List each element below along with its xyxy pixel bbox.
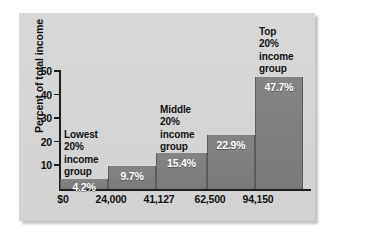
annotation-line: group [64, 166, 98, 178]
annotation-line: Top [259, 26, 293, 38]
y-axis-line [59, 70, 61, 189]
y-tick-mark [54, 117, 59, 119]
figure-canvas: Percent of total income 50 40 30 20 10 [0, 0, 365, 241]
bar-lowest-quintile[interactable]: 4.2% [60, 179, 108, 189]
bar-top-quintile[interactable]: 47.7% [255, 77, 303, 189]
y-tick-label: 40 [41, 90, 52, 101]
x-tick-label-0: $0 [57, 193, 68, 205]
x-tick-label-41127: 41,127 [144, 193, 175, 205]
bar-fourth-quintile[interactable]: 22.9% [207, 135, 255, 189]
annotation-line: Middle [160, 104, 194, 116]
x-tick-label-94150: 94,150 [243, 193, 274, 205]
annotation-line: income [160, 129, 194, 141]
x-tick-label-24000: 24,000 [96, 193, 127, 205]
chart-panel: Percent of total income 50 40 30 20 10 [19, 13, 315, 221]
y-tick-mark [54, 164, 59, 166]
bar-second-quintile[interactable]: 9.7% [108, 166, 156, 189]
annotation-line: 20% [64, 141, 98, 153]
bar-value-label: 47.7% [256, 81, 302, 93]
annotation-line: 20% [259, 38, 293, 50]
bar-value-label: 4.2% [61, 181, 107, 193]
annotation-line: income [259, 51, 293, 63]
bar-value-label: 22.9% [208, 139, 254, 151]
y-tick-mark [54, 141, 59, 143]
annotation-middle-quintile: Middle 20% income group [160, 104, 194, 154]
y-tick-mark [54, 94, 59, 96]
y-tick-mark [54, 70, 59, 72]
y-tick-label: 50 [41, 66, 52, 77]
x-tick-label-62500: 62,500 [195, 193, 226, 205]
y-tick-label: 10 [41, 160, 52, 171]
annotation-line: group [160, 141, 194, 153]
bar-value-label: 9.7% [109, 170, 155, 182]
annotation-line: income [64, 154, 98, 166]
annotation-top-quintile: Top 20% income group [259, 26, 293, 76]
annotation-line: group [259, 63, 293, 75]
annotation-lowest-quintile: Lowest 20% income group [64, 129, 98, 179]
bar-middle-quintile[interactable]: 15.4% [156, 153, 207, 189]
y-tick-label: 30 [41, 113, 52, 124]
bar-value-label: 15.4% [157, 157, 206, 169]
y-tick-label: 20 [41, 137, 52, 148]
plot-area: Percent of total income 50 40 30 20 10 [19, 13, 315, 221]
annotation-line: Lowest [64, 129, 98, 141]
annotation-line: 20% [160, 116, 194, 128]
